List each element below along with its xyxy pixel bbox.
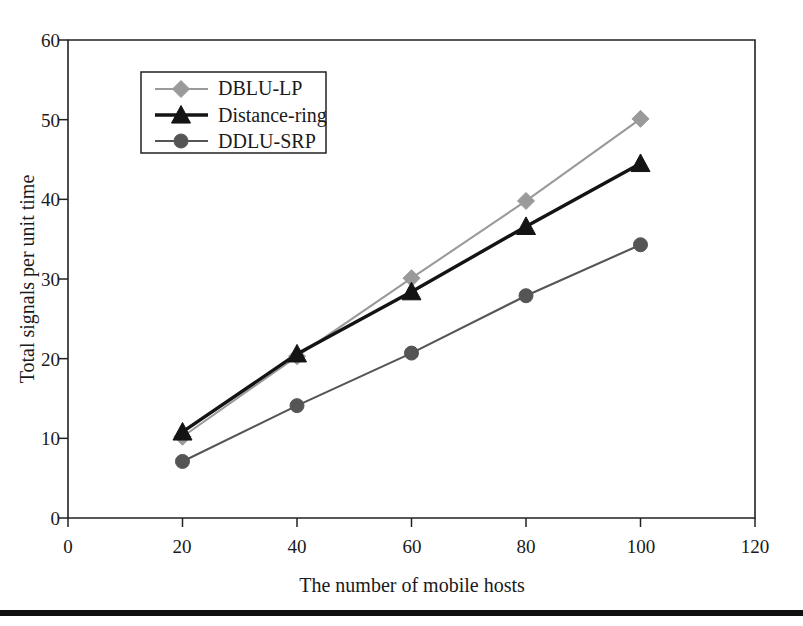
x-axis-title: The number of mobile hosts bbox=[299, 574, 525, 596]
data-point bbox=[290, 399, 304, 413]
x-tick-label-20: 20 bbox=[173, 536, 192, 557]
chart-figure: 0 10 20 30 40 50 60 0 20 40 60 80 100 12… bbox=[0, 0, 803, 626]
legend-label-2: DDLU-SRP bbox=[218, 130, 316, 152]
x-tick-label-0: 0 bbox=[63, 536, 73, 557]
y-tick-label-10: 10 bbox=[41, 428, 60, 449]
y-tick-label-0: 0 bbox=[51, 508, 61, 529]
x-tick-label-100: 100 bbox=[627, 536, 656, 557]
x-tick-label-60: 60 bbox=[403, 536, 422, 557]
y-tick-label-50: 50 bbox=[41, 110, 60, 131]
line-chart: 0 10 20 30 40 50 60 0 20 40 60 80 100 12… bbox=[0, 0, 803, 626]
chart-legend: DBLU-LP Distance-ring DDLU-SRP bbox=[141, 72, 327, 153]
x-tick-label-40: 40 bbox=[288, 536, 307, 557]
y-axis-title: Total signals per unit time bbox=[16, 175, 39, 384]
legend-label-0: DBLU-LP bbox=[218, 77, 302, 99]
data-point bbox=[634, 238, 648, 252]
legend-label-1: Distance-ring bbox=[218, 104, 327, 127]
bottom-divider-rule bbox=[0, 610, 803, 616]
data-point bbox=[519, 289, 533, 303]
data-point bbox=[176, 454, 190, 468]
x-tick-label-80: 80 bbox=[517, 536, 536, 557]
y-tick-label-60: 60 bbox=[41, 30, 60, 51]
figure-background bbox=[0, 0, 803, 626]
x-tick-label-120: 120 bbox=[741, 536, 770, 557]
data-point bbox=[405, 346, 419, 360]
y-tick-label-20: 20 bbox=[41, 349, 60, 370]
y-tick-label-30: 30 bbox=[41, 269, 60, 290]
y-tick-label-40: 40 bbox=[41, 189, 60, 210]
